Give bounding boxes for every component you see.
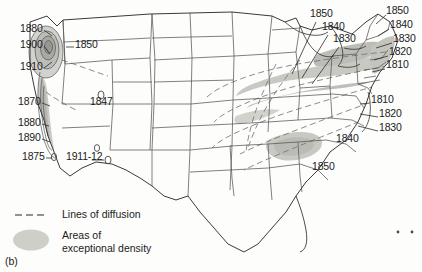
map-label-1830-ne: 1830 bbox=[393, 33, 416, 44]
map-label-1900-nw: 1900 bbox=[20, 39, 43, 50]
florida-outline bbox=[296, 196, 307, 252]
map-label-1911-12-nv: 1911-12 bbox=[66, 151, 102, 162]
legend-density-label-line2: exceptional density bbox=[62, 243, 151, 255]
map-label-1910-nw: 1910 bbox=[20, 61, 43, 72]
map-label-1847-ut: 1847 bbox=[90, 96, 113, 107]
map-label-1880-ca: 1880 bbox=[18, 117, 41, 128]
map-label-1850-ne: 1850 bbox=[386, 5, 409, 16]
figure-label: (b) bbox=[5, 255, 18, 267]
map-label-1850-se: 1850 bbox=[312, 161, 335, 172]
map-label-1840-gl: 1840 bbox=[322, 21, 345, 32]
legend-diffusion-label: Lines of diffusion bbox=[62, 209, 141, 221]
map-label-1840-ne: 1840 bbox=[390, 19, 413, 30]
legend-density-label-line1: Areas of bbox=[62, 230, 101, 242]
map-label-1820-ma: 1820 bbox=[379, 108, 402, 119]
map-label-1875-ca: 1875 bbox=[22, 151, 45, 162]
map-label-1810-ne: 1810 bbox=[386, 59, 409, 70]
map-label-1880-nw: 1880 bbox=[20, 23, 43, 34]
corner-marks bbox=[397, 231, 414, 234]
map-label-1850-wa: 1850 bbox=[75, 39, 98, 50]
map-label-1820-ne: 1820 bbox=[389, 46, 412, 57]
legend-glyphs bbox=[13, 215, 49, 251]
map-label-1810-ma: 1810 bbox=[371, 94, 394, 105]
map-label-1890-ca: 1890 bbox=[18, 132, 41, 143]
map-label-1850-gl: 1850 bbox=[310, 8, 333, 19]
map-label-1830-ma: 1830 bbox=[379, 122, 402, 133]
map-label-1830-gl: 1830 bbox=[333, 33, 356, 44]
map-label-1840-se: 1840 bbox=[336, 133, 359, 144]
map-label-1870-ca: 1870 bbox=[18, 96, 41, 107]
figure-diffusion-map: 1880 1900 1910 1850 1870 1880 1890 1875 … bbox=[0, 0, 422, 272]
